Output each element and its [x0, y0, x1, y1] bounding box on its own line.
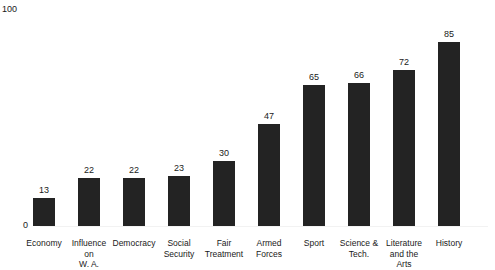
bar-group: 22Influence onW. A.: [67, 8, 111, 226]
bar: [348, 83, 370, 226]
bar-value-label: 22: [67, 165, 111, 175]
bar: [123, 178, 145, 226]
bar-group: 22Democracy: [112, 8, 156, 226]
bar-group: 65Sport: [292, 8, 336, 226]
bar-group: 47ArmedForces: [247, 8, 291, 226]
x-axis-category-label-line: Economy: [22, 238, 66, 249]
x-axis-category-label: Democracy: [112, 238, 156, 249]
x-axis-category-label: ArmedForces: [247, 238, 291, 259]
x-axis-category-label-line: Science &: [337, 238, 381, 249]
bar-value-label: 22: [112, 165, 156, 175]
bar-value-label: 66: [337, 70, 381, 80]
bar: [213, 161, 235, 226]
bar: [33, 198, 55, 226]
x-axis-category-label: Economy: [22, 238, 66, 249]
bar-value-label: 65: [292, 72, 336, 82]
x-axis-category-label: Science &Tech.: [337, 238, 381, 259]
bar-column: 22: [112, 8, 156, 226]
bar: [393, 70, 415, 226]
bar-column: 22: [67, 8, 111, 226]
bar-value-label: 13: [22, 185, 66, 195]
x-axis-category-label-line: Security: [157, 249, 201, 260]
x-axis-category-label-line: Tech.: [337, 249, 381, 260]
bar: [438, 42, 460, 226]
bar-group: 13Economy: [22, 8, 66, 226]
x-axis-category-label-line: W. A.: [67, 259, 111, 270]
bar-group: 23SocialSecurity: [157, 8, 201, 226]
bar: [303, 85, 325, 226]
x-axis-category-label: SocialSecurity: [157, 238, 201, 259]
bar-column: 72: [382, 8, 426, 226]
x-axis-category-label-line: Influence on: [67, 238, 111, 259]
x-axis-category-label-line: History: [427, 238, 471, 249]
x-axis-category-label: Literatureand the Arts: [382, 238, 426, 270]
x-axis-category-label-line: Sport: [292, 238, 336, 249]
bar-value-label: 23: [157, 163, 201, 173]
x-axis-category-label-line: Treatment: [202, 249, 246, 260]
x-axis-category-label-line: Social: [157, 238, 201, 249]
bar: [258, 124, 280, 226]
x-axis-category-label: Influence onW. A.: [67, 238, 111, 270]
x-axis-category-label-line: Armed: [247, 238, 291, 249]
bar: [78, 178, 100, 226]
x-axis-category-label-line: Forces: [247, 249, 291, 260]
bar-value-label: 30: [202, 148, 246, 158]
bar-value-label: 47: [247, 111, 291, 121]
bar-column: 65: [292, 8, 336, 226]
bar-column: 85: [427, 8, 471, 226]
x-axis-category-label: Sport: [292, 238, 336, 249]
x-axis-category-label: History: [427, 238, 471, 249]
x-axis-category-label-line: Fair: [202, 238, 246, 249]
bar-group: 66Science &Tech.: [337, 8, 381, 226]
bar-column: 23: [157, 8, 201, 226]
x-axis-category-label-line: Literature: [382, 238, 426, 249]
bar-column: 47: [247, 8, 291, 226]
x-axis-category-label-line: Democracy: [112, 238, 156, 249]
bar-column: 13: [22, 8, 66, 226]
bar-column: 30: [202, 8, 246, 226]
bar-group: 72Literatureand the Arts: [382, 8, 426, 226]
bar-value-label: 85: [427, 29, 471, 39]
bar-group: 85History: [427, 8, 471, 226]
bar-column: 66: [337, 8, 381, 226]
bar-group: 30FairTreatment: [202, 8, 246, 226]
x-axis-category-label: FairTreatment: [202, 238, 246, 259]
x-axis-category-label-line: and the Arts: [382, 249, 426, 270]
bar-value-label: 72: [382, 57, 426, 67]
bar: [168, 176, 190, 226]
